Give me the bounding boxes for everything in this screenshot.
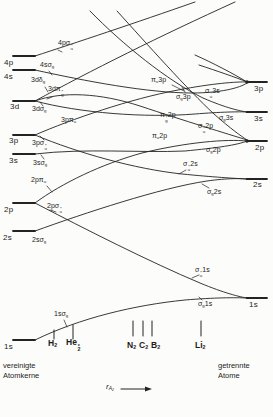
orbital-label-3s-sigma-g: 3sσg	[33, 159, 47, 167]
separated-level-label-2p: 2p	[255, 144, 264, 152]
orbital-label-pi-u-3p: πu3p	[151, 76, 166, 84]
arrowhead	[145, 387, 152, 392]
molecule-label-b2: B2	[151, 341, 160, 351]
orbital-label-sigma-u-star-2s: σ*u2s	[183, 160, 198, 171]
united-level-label-1s: 1s	[4, 343, 13, 351]
orbital-label-sigma-g-2s: σg2s	[207, 188, 221, 196]
orbital-label-sigma-u-star-1s: σ*u1s	[195, 266, 210, 277]
separated-level-label-3s: 3s	[254, 115, 263, 123]
curve-sigma-u-star-3s	[90, 11, 247, 112]
curve-1s-sigma-g	[35, 298, 247, 340]
x-axis-label: rA₂	[106, 383, 114, 392]
label-leaders	[40, 50, 209, 327]
orbital-label-sigma-g-3s: σg3s	[219, 114, 233, 122]
separated-level-label-2s: 2s	[253, 181, 262, 189]
orbital-label-1s-sigma-g: 1sσg	[54, 310, 68, 318]
united-level-label-3s: 3s	[9, 157, 18, 165]
orbital-label-3d-pi-g-star: 3dπ*g	[48, 85, 64, 96]
orbital-label-sigma-g-2p: σg2p	[206, 146, 221, 154]
molecule-label-c2: C2	[139, 341, 148, 351]
united-atoms-caption: vereinigte Atomkerne	[3, 361, 39, 381]
orbital-label-sigma-g-1s: σg1s	[198, 300, 212, 308]
orbital-label-sigma-g-3p: σg3p	[176, 93, 191, 101]
orbital-label-4s-sigma-g: 4sσg	[40, 61, 54, 69]
convergence-dots	[245, 80, 249, 299]
orbital-label-sigma-u-star-2p: σ*u2p	[198, 122, 213, 133]
united-level-lines	[13, 56, 35, 340]
united-level-label-2s: 2s	[3, 234, 12, 242]
united-level-label-3d: 3d	[10, 103, 19, 111]
united-level-label-3p: 3p	[9, 137, 18, 145]
orbital-label-3p-sigma-u-star: 3pσ*u	[32, 139, 47, 150]
orbital-label-4p-sigma-u-star: 4pσ*u	[58, 39, 73, 50]
orbital-label-pi-g-star-2p: π*g2p	[160, 111, 176, 122]
curve-stub-lower-3p	[199, 65, 247, 82]
molecule-label-li2: Li2	[195, 341, 206, 351]
united-level-label-2p: 2p	[4, 206, 13, 214]
curve-3p-sigma-u-star	[35, 135, 247, 179]
separated-level-label-3p: 3p	[254, 85, 263, 93]
x-axis-arrow	[121, 387, 152, 392]
united-level-label-4p: 4p	[4, 59, 13, 67]
molecule-label-n2: N2	[127, 341, 136, 351]
orbital-label-sigma-u-star-3s: σ*u3s	[205, 87, 220, 98]
orbital-label-2p-pi-u: 2pπu	[31, 176, 46, 184]
orbital-label-3p-pi-u: 3pπu	[61, 116, 76, 124]
united-level-label-4s: 4s	[4, 73, 13, 81]
molecule-label-he2: He*2	[66, 338, 80, 350]
orbital-label-2p-sigma-u-star: 2pσ*u	[47, 202, 62, 213]
separated-level-label-1s: 1s	[249, 301, 258, 309]
curve-2s-sigma-g	[35, 179, 247, 231]
orbital-label-3d-delta-g: 3dδg	[31, 76, 45, 84]
separated-atoms-caption: getrennte Atome	[218, 361, 250, 381]
orbital-label-pi-u-2p: πu2p	[152, 132, 167, 140]
curve-stub-upper-3p	[195, 55, 247, 82]
correlation-diagram-page: 4p 4s 3d 3p 3s 2p 2s 1s 3p 3s 2p 2s 1s 4…	[0, 0, 273, 417]
curve-2p-sigma-u-star	[35, 203, 247, 298]
orbital-label-2s-sigma-g: 2sσg	[32, 236, 46, 244]
orbital-label-3d-sigma-g: 3dσg	[32, 105, 47, 113]
molecule-label-h2: H2	[48, 339, 57, 349]
